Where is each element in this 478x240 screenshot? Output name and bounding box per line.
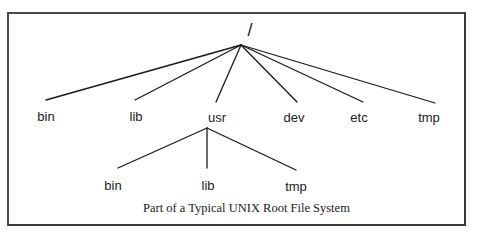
edge-usr-bin <box>118 128 207 168</box>
edge-root-lib <box>135 45 241 100</box>
node-root: / <box>247 21 252 39</box>
edge-root-bin <box>46 45 241 100</box>
node-etc: etc <box>350 111 367 124</box>
edge-usr-tmp <box>207 128 296 170</box>
node-usr-lib: lib <box>201 179 214 192</box>
node-usr-tmp: tmp <box>285 180 307 193</box>
figure-caption: Part of a Typical UNIX Root File System <box>143 201 350 216</box>
edge-root-usr <box>216 45 241 102</box>
node-dev: dev <box>284 111 305 124</box>
node-lib: lib <box>129 110 142 123</box>
edge-root-etc <box>241 45 363 102</box>
node-bin: bin <box>37 110 54 123</box>
node-usr-bin: bin <box>104 179 121 192</box>
node-tmp: tmp <box>418 111 440 124</box>
node-usr: usr <box>208 111 226 124</box>
